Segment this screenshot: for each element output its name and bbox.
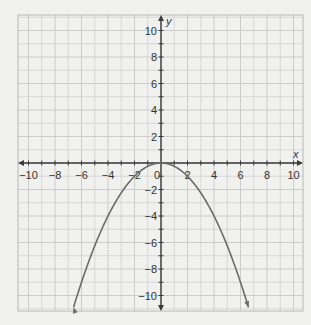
- x-tick-label: −6: [75, 169, 88, 181]
- y-tick-label: −8: [144, 263, 157, 275]
- x-tick-label: 6: [237, 169, 243, 181]
- y-tick-label: 4: [151, 104, 157, 116]
- x-tick-label: −4: [102, 169, 115, 181]
- y-tick-label: −10: [138, 290, 157, 302]
- y-tick-label: 10: [145, 25, 157, 37]
- x-axis-label: x: [292, 148, 299, 160]
- x-tick-label: 8: [264, 169, 270, 181]
- graph-canvas: −10−8−6−4−20246810−10−8−6−4−2246810 x y: [0, 0, 311, 325]
- y-tick-label: 6: [151, 78, 157, 90]
- x-tick-label: 4: [211, 169, 217, 181]
- y-tick-label: 8: [151, 51, 157, 63]
- y-tick-label: −6: [144, 237, 157, 249]
- x-tick-label: −10: [19, 169, 38, 181]
- y-tick-label: −4: [144, 210, 157, 222]
- x-tick-label: −2: [128, 169, 141, 181]
- y-tick-label: 2: [151, 131, 157, 143]
- x-tick-label: 10: [287, 169, 299, 181]
- x-tick-label: −8: [49, 169, 62, 181]
- y-tick-label: −2: [144, 184, 157, 196]
- x-tick-label: 0: [154, 169, 160, 181]
- y-axis-label: y: [165, 15, 173, 27]
